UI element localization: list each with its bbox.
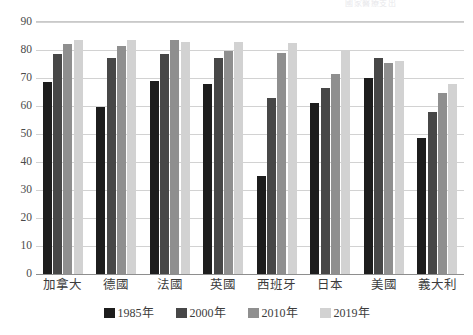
x-tick-label: 美國 xyxy=(371,277,397,293)
x-tick-label: 加拿大 xyxy=(43,277,82,293)
gridline-0 xyxy=(36,274,464,275)
bar xyxy=(203,84,212,274)
bar xyxy=(341,50,350,274)
legend-swatch-icon xyxy=(176,308,187,318)
y-tick-label-30: 30 xyxy=(2,184,32,196)
y-axis: 0102030405060708090 xyxy=(0,22,32,274)
bar xyxy=(96,107,105,274)
bar xyxy=(331,74,340,274)
bar xyxy=(74,40,83,274)
bar xyxy=(288,43,297,274)
legend-label: 2019年 xyxy=(334,307,370,319)
legend-swatch-icon xyxy=(104,308,115,318)
y-tick-label-20: 20 xyxy=(2,212,32,224)
bar xyxy=(364,78,373,274)
bar xyxy=(267,98,276,274)
bar xyxy=(127,40,136,274)
y-tick-label-50: 50 xyxy=(2,128,32,140)
y-tick-label-90: 90 xyxy=(2,16,32,28)
x-tick-label: 西班牙 xyxy=(257,277,296,293)
bar xyxy=(224,51,233,274)
legend-item[interactable]: 2000年 xyxy=(176,307,226,319)
legend-label: 2000年 xyxy=(190,307,226,319)
legend-swatch-icon xyxy=(248,308,259,318)
bar xyxy=(417,138,426,274)
bar xyxy=(107,58,116,274)
bars-layer xyxy=(36,22,464,274)
x-axis: 加拿大德國法國英國西班牙日本美國義大利 xyxy=(36,277,464,297)
bar xyxy=(63,44,72,274)
bar xyxy=(53,54,62,274)
bar xyxy=(428,112,437,274)
legend-item[interactable]: 2010年 xyxy=(248,307,298,319)
bar xyxy=(438,93,447,274)
bar xyxy=(395,61,404,274)
legend-item[interactable]: 2019年 xyxy=(320,307,370,319)
bar xyxy=(181,42,190,274)
legend-swatch-icon xyxy=(320,308,331,318)
bar xyxy=(170,40,179,274)
bar xyxy=(257,176,266,274)
y-tick-label-0: 0 xyxy=(2,268,32,280)
grouped-bar-chart: 國家醫療支出 0102030405060708090 加拿大德國法國英國西班牙日… xyxy=(0,0,473,335)
chart-legend: 1985年2000年2010年2019年 xyxy=(0,304,473,322)
bar-group xyxy=(90,22,144,274)
x-tick-label: 法國 xyxy=(157,277,183,293)
bar xyxy=(214,58,223,274)
bar xyxy=(448,84,457,274)
bar-group xyxy=(357,22,411,274)
y-tick-label-80: 80 xyxy=(2,44,32,56)
legend-label: 1985年 xyxy=(118,307,154,319)
bar xyxy=(160,54,169,274)
bar xyxy=(43,82,52,274)
bar-group xyxy=(143,22,197,274)
cropped-header-text: 國家醫療支出 xyxy=(345,0,460,7)
bar xyxy=(277,53,286,274)
bar xyxy=(117,46,126,274)
bar-group xyxy=(304,22,358,274)
y-tick-label-70: 70 xyxy=(2,72,32,84)
bar xyxy=(374,58,383,274)
x-tick-label: 義大利 xyxy=(418,277,457,293)
legend-label: 2010年 xyxy=(262,307,298,319)
bar xyxy=(384,63,393,274)
bar xyxy=(150,81,159,274)
bar xyxy=(310,103,319,274)
y-tick-label-10: 10 xyxy=(2,240,32,252)
bar-group xyxy=(250,22,304,274)
y-tick-label-60: 60 xyxy=(2,100,32,112)
bar-group xyxy=(411,22,465,274)
legend-item[interactable]: 1985年 xyxy=(104,307,154,319)
x-tick-label: 德國 xyxy=(103,277,129,293)
bar-group xyxy=(36,22,90,274)
x-tick-label: 日本 xyxy=(317,277,343,293)
x-tick-label: 英國 xyxy=(210,277,236,293)
bar xyxy=(234,42,243,274)
bar-group xyxy=(197,22,251,274)
bar xyxy=(321,88,330,274)
y-tick-label-40: 40 xyxy=(2,156,32,168)
